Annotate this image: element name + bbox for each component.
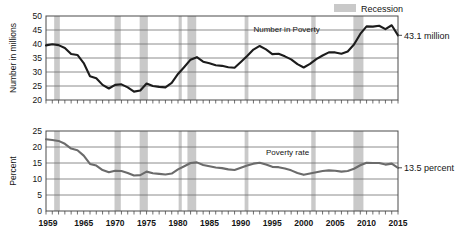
y-axis-title: Percent — [8, 156, 18, 186]
y-tick-label: 45 — [33, 25, 43, 35]
x-tick-label: 2010 — [357, 218, 376, 228]
x-tick-label: 1985 — [200, 218, 219, 228]
y-tick-label: 25 — [33, 81, 43, 91]
x-tick-label: 1995 — [263, 218, 282, 228]
y-tick-label: 35 — [33, 53, 43, 63]
poverty-figure: 20253035404550Number in millionsNumber i… — [0, 0, 468, 237]
x-tick-label: 1990 — [231, 218, 250, 228]
y-tick-label: 0 — [37, 206, 42, 216]
recession-band — [179, 131, 182, 211]
recession-swatch-icon — [334, 4, 356, 12]
y-tick-label: 10 — [33, 174, 43, 184]
y-tick-label: 15 — [33, 158, 43, 168]
series-line-poverty-rate — [46, 139, 398, 175]
recession-band — [311, 131, 315, 211]
series-label-number-in-poverty: Number in Poverty — [253, 25, 319, 34]
y-tick-label: 40 — [33, 39, 43, 49]
x-tick-label: 2005 — [326, 218, 345, 228]
end-label-number-in-poverty: 43.1 million — [404, 31, 450, 41]
x-tick-label: 2015 — [389, 218, 408, 228]
y-tick-label: 5 — [37, 190, 42, 200]
x-tick-label: 1965 — [74, 218, 93, 228]
y-axis-title: Number in millions — [8, 23, 18, 93]
x-tick-label: 1980 — [169, 218, 188, 228]
panel-poverty-rate: 0510152025195919651970197519801985199019… — [8, 126, 455, 228]
recession-band — [187, 131, 196, 211]
legend-label-recession: Recession — [361, 4, 403, 14]
x-tick-label: 1959 — [39, 218, 58, 228]
y-tick-label: 50 — [33, 11, 43, 21]
y-tick-label: 20 — [33, 95, 43, 105]
x-tick-label: 2000 — [294, 218, 313, 228]
end-label-poverty-rate: 13.5 percent — [404, 163, 455, 173]
legend: Recession — [334, 4, 403, 14]
y-tick-label: 20 — [33, 142, 43, 152]
recession-band — [245, 131, 249, 211]
series-label-poverty-rate: Poverty rate — [266, 148, 310, 157]
recession-band — [353, 131, 363, 211]
y-tick-label: 30 — [33, 67, 43, 77]
panel-number-in-poverty: 20253035404550Number in millionsNumber i… — [8, 11, 450, 105]
x-tick-label: 1970 — [106, 218, 125, 228]
poverty-chart-canvas: 20253035404550Number in millionsNumber i… — [0, 0, 468, 237]
y-tick-label: 25 — [33, 126, 43, 136]
recession-band — [54, 131, 60, 211]
x-tick-label: 1975 — [137, 218, 156, 228]
series-line-number-in-poverty — [46, 25, 398, 91]
